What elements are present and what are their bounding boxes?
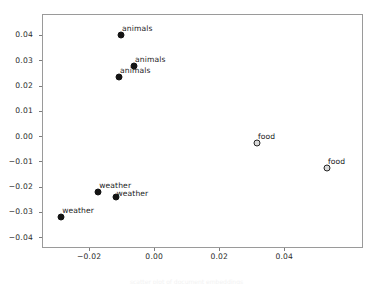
data-point-label: animals xyxy=(120,66,150,75)
scatter-plot-figure: 0.040.030.020.010.00−0.01−0.02−0.03−0.04… xyxy=(0,0,373,284)
data-point-label: animals xyxy=(135,55,165,64)
y-tick-label: 0.02 xyxy=(15,81,33,90)
x-tick-mark xyxy=(219,248,220,251)
y-tick-label: 0.00 xyxy=(15,132,33,141)
figure-caption: scatter plot of document embeddings xyxy=(0,278,373,284)
x-tick-mark xyxy=(89,248,90,251)
data-point-label: weather xyxy=(117,189,149,198)
y-tick-label: 0.01 xyxy=(15,106,33,115)
data-point-label: weather xyxy=(62,206,94,215)
y-tick-label: −0.01 xyxy=(9,157,33,166)
x-tick-label: 0.00 xyxy=(145,252,163,261)
data-point-label: food xyxy=(258,132,275,141)
y-tick-label: 0.03 xyxy=(15,56,33,65)
data-point-label: food xyxy=(328,157,345,166)
plot-axes-frame: animalsanimalsanimalsfoodfoodweatherweat… xyxy=(42,14,363,248)
y-tick-label: −0.03 xyxy=(9,207,33,216)
x-tick-mark xyxy=(154,248,155,251)
x-tick-label: 0.02 xyxy=(210,252,228,261)
x-tick-label: −0.02 xyxy=(77,252,101,261)
x-tick-mark xyxy=(284,248,285,251)
y-tick-label: −0.04 xyxy=(9,233,33,242)
y-tick-label: 0.04 xyxy=(15,30,33,39)
y-tick-label: −0.02 xyxy=(9,182,33,191)
data-point-label: animals xyxy=(122,24,152,33)
x-tick-label: 0.04 xyxy=(275,252,293,261)
